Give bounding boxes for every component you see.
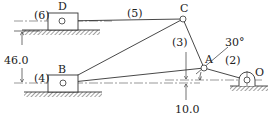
- pin-o: [244, 77, 250, 83]
- label-c: C: [180, 2, 188, 15]
- linkage-diagram: D B C A O (6) (4) (5) (3) (2) 30° 46.0 1…: [0, 0, 275, 118]
- pin-b: [60, 80, 66, 86]
- label-dim-10: 10.0: [175, 103, 200, 116]
- label-a: A: [204, 53, 214, 66]
- label-d: D: [58, 0, 67, 13]
- label-b: B: [58, 63, 66, 76]
- label-o: O: [255, 66, 264, 79]
- ground-b: [24, 92, 102, 97]
- link-bc: [63, 19, 183, 83]
- label-dim-46: 46.0: [4, 54, 29, 67]
- pin-d: [59, 18, 65, 24]
- link-5: [62, 19, 183, 21]
- link-3: [63, 68, 204, 83]
- label-link-3: (3): [172, 36, 188, 49]
- pin-c: [180, 16, 186, 22]
- label-link-4: (4): [34, 72, 50, 85]
- label-link-2: (2): [225, 54, 241, 67]
- label-link-6: (6): [34, 9, 50, 22]
- label-link-5: (5): [127, 7, 143, 20]
- label-angle: 30°: [225, 36, 245, 49]
- angle-arc: [200, 72, 201, 80]
- ground-o: [230, 86, 268, 91]
